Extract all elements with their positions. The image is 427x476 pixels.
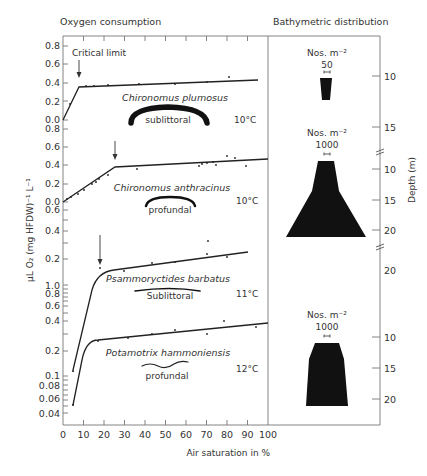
distribution-shape — [306, 343, 348, 406]
temperature-label: 11°C — [236, 289, 258, 299]
distribution-shape — [320, 78, 332, 100]
panel-chironomus-plumosus: 0.8 0.6 0.4 0.2 0.0 Critical limit — [45, 40, 258, 125]
svg-text:0.8: 0.8 — [45, 40, 60, 51]
svg-text:0.06: 0.06 — [39, 393, 60, 404]
svg-text:0.4: 0.4 — [45, 77, 60, 88]
panel-psammoryctides-barbatus: 0.6 0.4 0.2 Psammoryctides barbatus S — [45, 204, 258, 370]
habitat-label: profundal — [148, 205, 191, 215]
figure: Oxygen consumption Bathymetric distribut… — [0, 0, 427, 476]
panel3-y-ticks: 0.6 0.4 0.2 — [45, 204, 60, 264]
svg-text:40: 40 — [139, 429, 151, 440]
svg-text:0.4: 0.4 — [45, 315, 60, 326]
svg-text:100: 100 — [259, 429, 277, 440]
svg-text:15: 15 — [384, 195, 396, 206]
svg-text:0.4: 0.4 — [45, 159, 60, 170]
svg-text:0.6: 0.6 — [45, 204, 60, 215]
density-label: Nos. m⁻² — [307, 310, 347, 320]
svg-text:30: 30 — [118, 429, 130, 440]
svg-text:20: 20 — [98, 429, 110, 440]
habitat-label: Sublittoral — [147, 291, 193, 301]
svg-text:0.8: 0.8 — [45, 288, 60, 299]
svg-text:15: 15 — [384, 363, 396, 374]
svg-text:90: 90 — [241, 429, 253, 440]
svg-text:10: 10 — [384, 164, 396, 175]
svg-text:0.2: 0.2 — [45, 178, 60, 189]
svg-text:0.2: 0.2 — [45, 253, 60, 264]
svg-text:70: 70 — [200, 429, 212, 440]
oxygen-consumption-title: Oxygen consumption — [60, 16, 161, 27]
svg-text:0.6: 0.6 — [45, 141, 60, 152]
svg-text:50: 50 — [159, 429, 171, 440]
scale-bar — [324, 71, 330, 74]
svg-text:20: 20 — [384, 265, 396, 276]
x-tick-labels: 0 10 20 30 40 50 60 70 80 90 100 — [60, 429, 277, 440]
svg-text:0.2: 0.2 — [45, 96, 60, 107]
species-name: Potamotrix hammoniensis — [106, 347, 230, 358]
svg-text:20: 20 — [384, 225, 396, 236]
density-scale: 1000 — [316, 140, 339, 150]
depth-axis-label: Depth (m) — [407, 157, 417, 203]
temperature-label: 10°C — [236, 196, 258, 206]
density-scale: 50 — [321, 60, 333, 70]
svg-text:0.08: 0.08 — [39, 380, 60, 391]
species-name: Chironomus anthracinus — [114, 182, 230, 193]
panel4-y-ticks: 1.0 0.8 0.6 0.4 0.2 0.1 0.08 0.06 0.04 — [39, 280, 60, 419]
x-axis-label: Air saturation in % — [186, 448, 270, 458]
svg-text:20: 20 — [384, 394, 396, 405]
svg-text:0.6: 0.6 — [45, 58, 60, 69]
depth-ticks — [372, 76, 380, 399]
species-name: Psammoryctides barbatus — [106, 273, 230, 284]
habitat-label: sublittoral — [145, 115, 190, 125]
panel1-y-ticks: 0.8 0.6 0.4 0.2 0.0 — [45, 40, 60, 125]
svg-text:10: 10 — [384, 332, 396, 343]
panel2-y-ticks: 0.8 0.6 0.4 0.2 0.0 — [45, 123, 60, 207]
temperature-label: 12°C — [236, 364, 258, 374]
panel3-points — [99, 240, 228, 272]
svg-text:0.04: 0.04 — [39, 408, 60, 419]
density-label: Nos. m⁻² — [307, 48, 347, 58]
critical-limit-label: Critical limit — [72, 48, 127, 58]
bathymetric-title: Bathymetric distribution — [273, 16, 388, 27]
svg-text:60: 60 — [180, 429, 192, 440]
svg-text:0.6: 0.6 — [45, 300, 60, 311]
critical-limit-arrow — [113, 141, 118, 160]
habitat-label: profundal — [145, 371, 188, 381]
species-name: Chironomus plumosus — [122, 92, 228, 103]
scale-bar — [324, 335, 330, 338]
critical-limit-arrow — [77, 60, 82, 78]
panel-chironomus-anthracinus: 0.8 0.6 0.4 0.2 0.0 — [45, 123, 268, 215]
svg-text:15: 15 — [384, 122, 396, 133]
depth-tick-labels: 10 15 10 15 20 20 10 15 20 — [384, 71, 396, 405]
svg-text:0: 0 — [60, 429, 66, 440]
svg-text:0.4: 0.4 — [45, 225, 60, 236]
svg-text:0.8: 0.8 — [45, 123, 60, 134]
svg-text:80: 80 — [221, 429, 233, 440]
density-label: Nos. m⁻² — [307, 128, 347, 138]
svg-text:10: 10 — [384, 71, 396, 82]
scale-bar — [324, 153, 330, 156]
svg-text:10: 10 — [77, 429, 89, 440]
svg-text:0.2: 0.2 — [45, 345, 60, 356]
bottom-x-ticks — [84, 420, 248, 425]
y-axis-label: µL O₂ (mg HFDW)⁻¹ L⁻¹ — [25, 178, 35, 282]
top-x-ticks — [84, 36, 248, 41]
density-scale: 1000 — [316, 322, 339, 332]
distribution-shape — [286, 161, 366, 237]
critical-limit-arrow — [98, 235, 103, 265]
tube-icon — [142, 361, 188, 367]
temperature-label: 10°C — [234, 115, 256, 125]
